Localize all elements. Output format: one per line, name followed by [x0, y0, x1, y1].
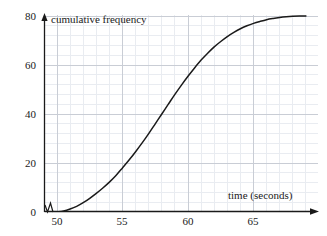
y-tick-label-80: 80: [8, 11, 36, 22]
y-axis-arrow-icon: [41, 13, 47, 21]
x-tick-label-60: 60: [173, 216, 203, 227]
x-tick-label-65: 65: [238, 216, 268, 227]
y-tick-label-40: 40: [8, 109, 36, 120]
cumulative-frequency-chart: 80 60 40 20 0 50 55 60 65 cumulative fre…: [0, 0, 327, 236]
y-tick-label-20: 20: [8, 158, 36, 169]
y-tick-label-60: 60: [8, 60, 36, 71]
x-axis-title: time (seconds): [228, 190, 292, 201]
y-tick-label-0: 0: [8, 207, 36, 218]
x-tick-label-55: 55: [107, 216, 137, 227]
y-axis-title: cumulative frequency: [51, 14, 147, 25]
x-tick-label-50: 50: [42, 216, 72, 227]
x-axis-arrow-icon: [310, 208, 319, 214]
x-axis-break-zigzag-icon: [45, 203, 53, 212]
